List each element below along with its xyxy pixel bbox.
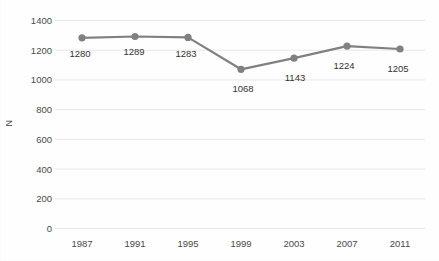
x-tick-label: 1987	[71, 238, 92, 249]
data-label: 1224	[333, 60, 354, 71]
line-chart: N 0200400600800100012001400 128012891283…	[0, 0, 439, 261]
data-point-marker	[290, 55, 297, 62]
data-point-marker	[396, 45, 403, 52]
data-label: 1280	[69, 48, 90, 59]
x-tick-label: 2007	[336, 238, 357, 249]
gridlines	[55, 21, 425, 229]
data-label: 1283	[175, 48, 196, 59]
chart-screenshot: N 0200400600800100012001400 128012891283…	[0, 0, 439, 261]
data-label: 1205	[387, 63, 408, 74]
x-tick-label: 2011	[390, 238, 410, 249]
data-label: 1143	[285, 72, 305, 83]
data-point-marker	[131, 33, 138, 40]
data-point-marker	[343, 43, 350, 50]
data-point-marker	[237, 66, 244, 73]
data-label: 1289	[123, 46, 144, 57]
data-point-marker	[184, 34, 191, 41]
x-tick-label: 2003	[283, 238, 304, 249]
x-tick-label: 1999	[230, 238, 251, 249]
x-tick-label: 1995	[177, 238, 198, 249]
plot-canvas	[0, 0, 439, 261]
data-label: 1068	[232, 83, 253, 94]
data-point-marker	[78, 34, 85, 41]
x-tick-label: 1991	[124, 238, 145, 249]
